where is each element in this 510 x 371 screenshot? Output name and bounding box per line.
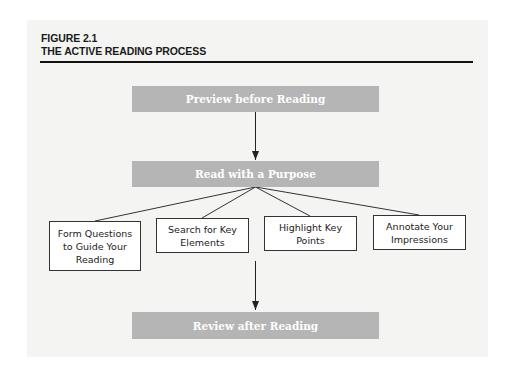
branch-line-1 bbox=[95, 187, 256, 221]
arrow-head-icon bbox=[252, 151, 259, 160]
step-preview: Preview before Reading bbox=[132, 86, 379, 112]
substep-form-questions: Form Questions to Guide Your Reading bbox=[49, 221, 141, 271]
branch-line-2 bbox=[202, 187, 256, 218]
substep-search: Search for Key Elements bbox=[156, 218, 249, 253]
substep-highlight: Highlight Key Points bbox=[264, 216, 357, 251]
substep-annotate: Annotate Your Impressions bbox=[373, 215, 466, 250]
step-read: Read with a Purpose bbox=[132, 161, 379, 187]
branch-line-4 bbox=[256, 187, 420, 215]
step-review: Review after Reading bbox=[132, 312, 379, 339]
arrow-head-icon bbox=[252, 301, 259, 310]
